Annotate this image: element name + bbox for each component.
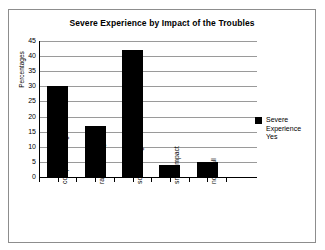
y-tick-label-10: 10: [22, 143, 36, 150]
x-tick-mark-0-1: [58, 178, 59, 182]
gridline-45: [39, 41, 257, 42]
legend-label-severe-experience-yes: Severe Experience Yes: [266, 116, 301, 142]
legend-swatch-severe-experience-yes: [255, 117, 262, 124]
gridline-25: [39, 101, 257, 102]
x-tick-mark-end: [226, 178, 227, 182]
gridlines: [39, 41, 257, 177]
x-tick-mark-2-1: [133, 178, 134, 182]
gridline-40: [39, 56, 257, 57]
axis-baseline: [39, 177, 257, 178]
x-category-label-not-at-all: not at all: [210, 158, 217, 184]
x-tick-mark-4-1: [207, 178, 208, 182]
legend-label-line-3: Yes: [266, 133, 301, 142]
y-tick-label-40: 40: [22, 52, 36, 59]
x-tick-mark-3-1: [170, 178, 171, 182]
chart-title: Severe Experience by Impact of the Troub…: [9, 18, 315, 28]
x-tick-mark-3-0: [151, 178, 152, 182]
y-tick-label-15: 15: [22, 128, 36, 135]
gridline-15: [39, 132, 257, 133]
x-tick-mark-4-0: [189, 178, 190, 182]
legend-label-line-1: Severe: [266, 116, 301, 125]
x-tick-mark-1-1: [95, 178, 96, 182]
y-tick-label-0: 0: [22, 173, 36, 180]
chart-legend: Severe Experience Yes: [255, 116, 301, 142]
x-tick-mark-2-0: [114, 178, 115, 182]
x-tick-mark-0-0: [39, 178, 40, 182]
y-tick-label-30: 30: [22, 82, 36, 89]
y-tick-label-25: 25: [22, 97, 36, 104]
x-tick-mark-1-0: [76, 178, 77, 182]
y-axis-tick-labels: 051015202530354045: [19, 41, 36, 177]
y-tick-label-5: 5: [22, 158, 36, 165]
y-tick-label-35: 35: [22, 67, 36, 74]
y-tick-label-20: 20: [22, 113, 36, 120]
x-category-label-some-change: some change: [136, 143, 143, 184]
gridline-35: [39, 71, 257, 72]
y-axis-line: [39, 41, 40, 178]
legend-label-line-2: Experience: [266, 125, 301, 134]
x-category-label-small-impact: small impact: [173, 146, 180, 184]
chart-frame: Severe Experience by Impact of the Troub…: [8, 9, 316, 243]
gridline-30: [39, 86, 257, 87]
gridline-20: [39, 117, 257, 118]
x-category-label-radical-change: radical change: [98, 140, 105, 184]
gridline-10: [39, 147, 257, 148]
gridline-5: [39, 162, 257, 163]
y-tick-label-45: 45: [22, 37, 36, 44]
x-category-label-complete-change: complete change: [61, 132, 68, 184]
